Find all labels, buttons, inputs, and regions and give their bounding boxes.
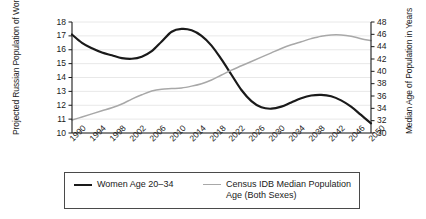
chart-figure: Projected Russian Population of Women (m… bbox=[0, 0, 426, 219]
y-tick-left-12: 12 bbox=[52, 101, 66, 110]
y-tick-left-14: 14 bbox=[52, 73, 66, 82]
y-tick-left-11: 11 bbox=[52, 115, 66, 124]
y-tick-right-36: 36 bbox=[377, 92, 393, 101]
y-tick-left-13: 13 bbox=[52, 87, 66, 96]
legend-item-median-age: Census IDB Median Population Age (Both S… bbox=[203, 179, 355, 201]
legend-label-women: Women Age 20–34 bbox=[97, 179, 173, 190]
chart-legend: Women Age 20–34 Census IDB Median Popula… bbox=[64, 172, 360, 209]
y-tick-left-18: 18 bbox=[52, 18, 66, 27]
y-tick-left-16: 16 bbox=[52, 45, 66, 54]
series-line-0 bbox=[72, 29, 371, 123]
y-tick-right-42: 42 bbox=[377, 55, 393, 64]
y-tick-right-46: 46 bbox=[377, 30, 393, 39]
y-tick-right-38: 38 bbox=[377, 79, 393, 88]
y-tick-right-34: 34 bbox=[377, 104, 393, 113]
y-tick-left-17: 17 bbox=[52, 31, 66, 40]
y-tick-right-48: 48 bbox=[377, 18, 393, 27]
series-lines bbox=[72, 29, 371, 123]
legend-item-women: Women Age 20–34 bbox=[74, 179, 173, 190]
y-tick-left-10: 10 bbox=[52, 129, 66, 138]
y-tick-right-40: 40 bbox=[377, 67, 393, 76]
legend-swatch-median-age bbox=[203, 184, 221, 185]
gridlines bbox=[72, 22, 371, 133]
legend-label-median-age-line2: Age (Both Sexes) bbox=[226, 190, 351, 201]
y-tick-left-15: 15 bbox=[52, 59, 66, 68]
y-tick-right-44: 44 bbox=[377, 42, 393, 51]
legend-swatch-women bbox=[74, 184, 92, 186]
legend-label-median-age-line1: Census IDB Median Population bbox=[226, 179, 351, 190]
